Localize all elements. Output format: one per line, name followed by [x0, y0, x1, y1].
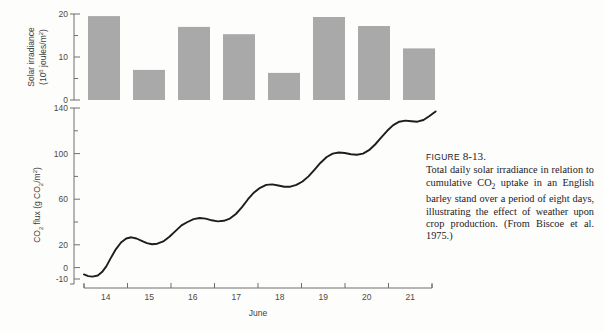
xtick-label-19: 19: [319, 292, 329, 302]
xtick-label-16: 16: [188, 292, 198, 302]
bar-june-16: [178, 27, 210, 100]
figure-number: 8-13.: [463, 150, 486, 162]
lower-ytick-label-100: 100: [54, 149, 68, 159]
upper-ytick-label-20: 20: [59, 9, 69, 19]
lower-ytick-label-60: 60: [59, 194, 69, 204]
lower-ytick-label-20: 20: [59, 240, 69, 250]
upper-y-axis-title: Solar irradiance: [26, 27, 36, 87]
co2-flux-panel: 140 100 60 20 0 -10 CO2 flux (g CO2/m2) …: [32, 103, 436, 318]
x-axis-title: June: [249, 308, 268, 318]
figure-8-13: 20 10 0 Solar irradiance (106 joules/m2): [0, 0, 604, 332]
lower-ytick-label-minus10: -10: [56, 274, 69, 284]
lower-y-axis-title: CO2 flux (g CO2/m2): [32, 167, 44, 243]
xtick-label-17: 17: [232, 292, 242, 302]
bar-june-18: [268, 73, 300, 100]
bar-june-15: [133, 70, 165, 100]
figure-caption: Figure 8-13. Total daily solar irradianc…: [426, 150, 594, 243]
upper-ytick-label-10: 10: [59, 52, 69, 62]
bar-june-21: [403, 48, 435, 100]
xtick-label-14: 14: [101, 292, 111, 302]
solar-irradiance-panel: 20 10 0 Solar irradiance (106 joules/m2): [26, 9, 435, 105]
bar-june-19: [313, 17, 345, 100]
figure-label: Figure: [426, 152, 460, 162]
bar-june-20: [358, 26, 390, 100]
bar-june-17: [223, 34, 255, 100]
lower-y-axis: [70, 108, 74, 284]
upper-y-axis-unit: (106 joules/m2): [38, 29, 48, 85]
xtick-label-21: 21: [406, 292, 416, 302]
lower-ytick-label-0: 0: [63, 263, 68, 273]
xtick-label-18: 18: [275, 292, 285, 302]
xtick-label-15: 15: [145, 292, 155, 302]
co2-flux-curve: [84, 111, 436, 276]
lower-ytick-label-140: 140: [54, 103, 68, 113]
figure-caption-text: Total daily solar irradiance in relation…: [426, 164, 594, 242]
xtick-label-20: 20: [362, 292, 372, 302]
bar-june-14: [88, 16, 120, 100]
upper-y-axis: [70, 14, 74, 100]
